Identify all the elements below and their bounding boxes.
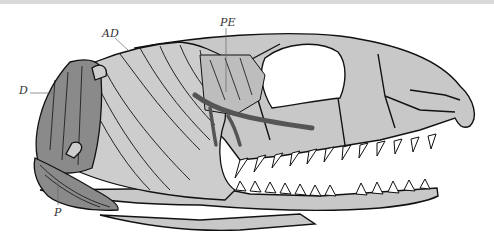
label-p: P (54, 207, 61, 218)
skull-diagram (0, 0, 494, 241)
label-d: D (19, 85, 28, 96)
label-pe: PE (220, 17, 235, 28)
label-ad: AD (102, 28, 119, 39)
